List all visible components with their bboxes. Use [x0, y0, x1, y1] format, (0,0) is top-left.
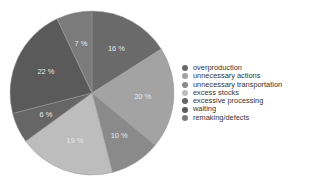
- legend-label: remaking/defects: [193, 114, 249, 122]
- slice-percent-label: 22 %: [37, 67, 54, 76]
- slice-percent-label: 20 %: [134, 92, 151, 101]
- legend-swatch: [182, 98, 188, 104]
- slice-percent-label: 6 %: [40, 110, 53, 119]
- legend-swatch: [182, 90, 188, 96]
- slice-percent-label: 16 %: [108, 44, 125, 53]
- chart-legend: overproduction unnecessary actions unnec…: [182, 64, 282, 122]
- legend-swatch: [182, 73, 188, 79]
- legend-swatch: [182, 65, 188, 71]
- legend-swatch: [182, 115, 188, 121]
- slice-percent-label: 19 %: [66, 136, 83, 145]
- legend-swatch: [182, 82, 188, 88]
- legend-swatch: [182, 107, 188, 113]
- slice-percent-label: 7 %: [74, 39, 87, 48]
- slice-percent-label: 10 %: [111, 131, 128, 140]
- legend-item-remaking-defects: remaking/defects: [182, 114, 282, 122]
